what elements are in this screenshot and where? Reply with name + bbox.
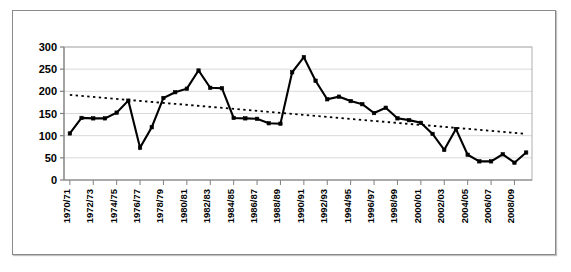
- y-tick-labels: 050100150200250300: [39, 41, 57, 186]
- x-tick-label: 1990/91: [295, 188, 306, 223]
- x-tick-label: 2002/03: [435, 189, 446, 223]
- x-tick-label: 1992/93: [318, 189, 329, 223]
- data-series-markers: [68, 56, 528, 165]
- x-tick-label: 1976/77: [131, 189, 142, 223]
- x-tick-label: 1988/89: [271, 189, 282, 223]
- y-tick-label: 50: [45, 152, 57, 164]
- y-tick-label: 0: [51, 174, 57, 186]
- x-tick-label: 2000/01: [412, 188, 423, 223]
- y-tick-label: 300: [39, 41, 57, 53]
- y-tick-label: 200: [39, 85, 57, 97]
- y-tick-label: 150: [39, 108, 57, 120]
- x-tick-label: 2004/05: [459, 188, 470, 223]
- x-tick-label: 2008/09: [505, 189, 516, 223]
- chart-figure: 050100150200250300 1970/711972/731974/75…: [0, 0, 571, 272]
- y-tick-label: 250: [39, 63, 57, 75]
- x-tick-label: 1998/99: [388, 189, 399, 223]
- x-tick-label: 1994/95: [342, 188, 353, 223]
- x-tick-label: 1972/73: [84, 189, 95, 223]
- y-tick-label: 100: [39, 130, 57, 142]
- x-tick-label: 1986/87: [248, 189, 259, 223]
- x-tick-label: 1974/75: [108, 188, 119, 223]
- line-chart-svg: 050100150200250300 1970/711972/731974/75…: [0, 0, 571, 272]
- x-tick-label: 1980/81: [178, 188, 189, 223]
- x-tick-label: 1970/71: [61, 188, 72, 223]
- x-axis-group: [64, 180, 532, 185]
- y-axis-group: [60, 47, 64, 180]
- x-tick-label: 2006/07: [482, 189, 493, 223]
- x-tick-label: 1982/83: [201, 189, 212, 223]
- x-tick-label: 1984/85: [225, 188, 236, 223]
- plot-wrapper: 050100150200250300 1970/711972/731974/75…: [0, 0, 571, 272]
- x-tick-labels: 1970/711972/731974/751976/771978/791980/…: [61, 188, 517, 223]
- x-tick-label: 1978/79: [154, 189, 165, 223]
- x-tick-label: 1996/97: [365, 189, 376, 223]
